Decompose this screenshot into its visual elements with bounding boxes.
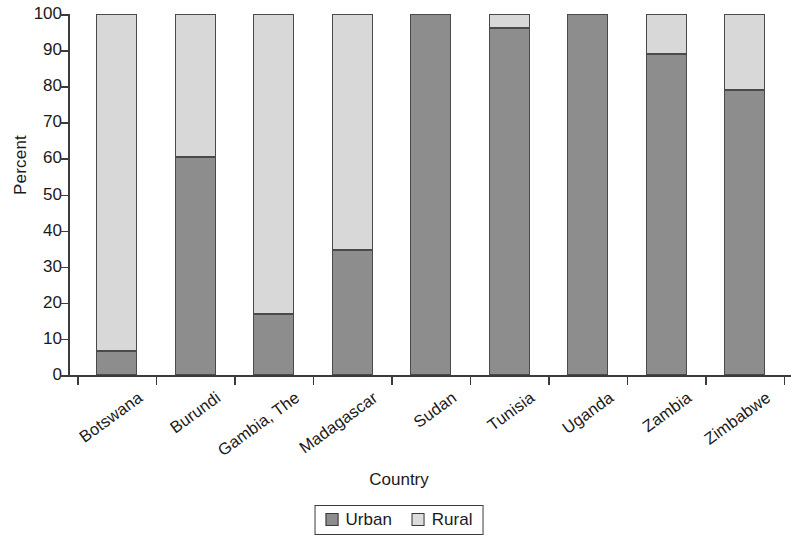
bar-tunisia xyxy=(489,14,530,375)
bar-segment-rural xyxy=(253,14,294,314)
bar-burundi xyxy=(175,14,216,375)
bar-segment-rural xyxy=(175,14,216,157)
bar-segment-urban xyxy=(646,54,687,375)
legend-label-urban: Urban xyxy=(346,510,392,529)
bar-segment-urban xyxy=(489,28,530,375)
bar-segment-rural xyxy=(489,14,530,28)
stacked-bar-chart-figure: Percent 0102030405060708090100 BotswanaB… xyxy=(0,0,798,540)
bar-segment-urban xyxy=(724,90,765,375)
legend-entry-urban: Urban xyxy=(326,510,392,529)
x-axis-tick-label-text: Zimbabwe xyxy=(700,388,773,449)
bar-segment-rural xyxy=(646,14,687,54)
bar-madagascar xyxy=(332,14,373,375)
bar-uganda xyxy=(567,14,608,375)
bar-botswana xyxy=(96,14,137,375)
bar-segment-rural xyxy=(724,14,765,90)
chart-legend: Urban Rural xyxy=(315,505,484,535)
bar-zambia xyxy=(646,14,687,375)
bar-segment-rural xyxy=(332,14,373,250)
x-axis-tick-label-text: Botswana xyxy=(75,388,145,446)
legend-swatch-rural-icon xyxy=(412,513,425,526)
legend-label-rural: Rural xyxy=(432,510,473,529)
bar-segment-urban xyxy=(175,157,216,375)
bar-segment-rural xyxy=(96,14,137,351)
bar-gambia-the xyxy=(253,14,294,375)
bar-segment-urban xyxy=(96,351,137,375)
x-axis-tick-label-text: Sudan xyxy=(409,388,459,432)
x-axis-tick-label-text: Uganda xyxy=(558,388,616,438)
bar-zimbabwe xyxy=(724,14,765,375)
legend-entry-rural: Rural xyxy=(412,510,473,529)
x-axis-tick-label-text: Burundi xyxy=(166,388,224,437)
x-axis-title: Country xyxy=(0,470,798,490)
bar-segment-urban xyxy=(567,14,608,375)
x-axis-tick-label-text: Zambia xyxy=(639,388,695,436)
x-axis-tick-label-text: Tunisia xyxy=(484,388,538,435)
bar-segment-urban xyxy=(410,14,451,375)
legend-swatch-urban-icon xyxy=(326,513,339,526)
plot-area xyxy=(0,0,798,390)
bar-sudan xyxy=(410,14,451,375)
